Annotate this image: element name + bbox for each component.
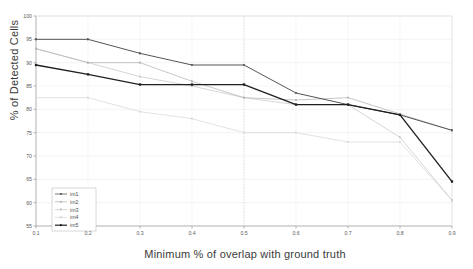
x-tick-label: 0.6 — [292, 230, 299, 236]
legend-label: im5 — [70, 222, 78, 228]
y-tick-label: 65 — [26, 176, 32, 182]
legend-label: im1 — [70, 191, 78, 197]
x-tick-label: 0.5 — [240, 230, 247, 236]
line-chart-plot: 556065707580859095100 0.10.20.30.40.50.6… — [0, 0, 473, 269]
x-tick-label: 0.9 — [448, 230, 455, 236]
legend-label: im4 — [70, 214, 78, 220]
x-tick-label: 0.3 — [136, 230, 143, 236]
x-axis-title: Minimum % of overlap with ground truth — [36, 248, 454, 260]
chart-figure: 556065707580859095100 0.10.20.30.40.50.6… — [0, 0, 473, 269]
axis-lines — [34, 16, 453, 229]
x-tick-label: 0.8 — [396, 230, 403, 236]
y-tick-label: 60 — [26, 200, 32, 206]
chart-legend: im1im2im3im4im5 — [52, 188, 96, 231]
y-tick-label: 70 — [26, 153, 32, 159]
x-tick-label: 0.4 — [188, 230, 195, 236]
grid-lines — [36, 16, 452, 226]
x-tick-label: 0.7 — [344, 230, 351, 236]
y-axis-title: % of Detected Cells — [8, 0, 28, 150]
y-tick-label: 55 — [26, 223, 32, 229]
legend-label: im3 — [70, 207, 78, 213]
x-tick-label: 0.1 — [32, 230, 39, 236]
legend-label: im2 — [70, 199, 78, 205]
